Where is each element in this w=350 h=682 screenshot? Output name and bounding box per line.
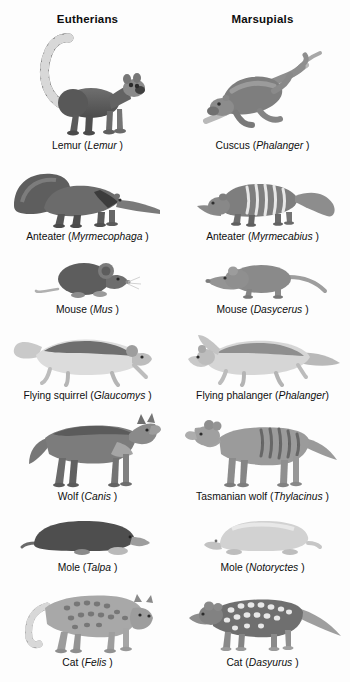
caption-mole-eutherian: Mole (Talpa ): [58, 559, 118, 574]
table-row: Wolf (Canis ): [0, 408, 350, 503]
caption-wolf: Wolf (Canis ): [58, 488, 117, 503]
flying-squirrel-illustration: [0, 325, 175, 387]
caption-mouse-eutherian: Mouse (Mus ): [56, 301, 119, 316]
cell-eutherian-cat: Cat (Felis ): [0, 582, 175, 669]
table-row: Flying squirrel (Glaucomys ): [0, 325, 350, 402]
cell-marsupial-flying-phalanger: Flying phalanger (Phalanger): [175, 325, 350, 402]
cell-marsupial-mole: Mole (Notoryctes ): [175, 513, 350, 574]
caption-thylacine: Tasmanian wolf (Thylacinus ): [196, 488, 329, 503]
convergent-evolution-figure: Eutherians Marsupials: [0, 0, 350, 682]
mouse-illustration: [0, 251, 175, 301]
giant-anteater-illustration: [0, 162, 175, 228]
comparison-rows: Lemur (Lemur ): [0, 29, 350, 669]
numbat-illustration: [175, 162, 350, 228]
table-row: Lemur (Lemur ): [0, 29, 350, 152]
cell-marsupial-cuscus: Cuscus (Phalanger ): [175, 29, 350, 152]
quoll-illustration: [175, 582, 350, 654]
cell-eutherian-mouse: Mouse (Mus ): [0, 251, 175, 316]
ocelot-illustration: [0, 582, 175, 654]
caption-anteater-marsupial: Anteater (Myrmecabius ): [206, 228, 319, 243]
thylacine-illustration: [175, 408, 350, 488]
wolf-illustration: [0, 408, 175, 488]
caption-anteater-eutherian: Anteater (Myrmecophaga ): [26, 228, 148, 243]
caption-mole-marsupial: Mole (Notoryctes ): [220, 559, 304, 574]
column-headers: Eutherians Marsupials: [0, 0, 350, 25]
table-row: Cat (Felis ): [0, 582, 350, 669]
cell-eutherian-anteater: Anteater (Myrmecophaga ): [0, 162, 175, 243]
mole-illustration: [0, 513, 175, 559]
caption-cat-eutherian: Cat (Felis ): [62, 654, 112, 669]
cell-marsupial-mouse: Mouse (Dasycerus ): [175, 251, 350, 316]
caption-mouse-marsupial: Mouse (Dasycerus ): [216, 301, 308, 316]
table-row: Anteater (Myrmecophaga ): [0, 162, 350, 243]
cell-eutherian-lemur: Lemur (Lemur ): [0, 29, 175, 152]
column-header-marsupials: Marsupials: [175, 13, 350, 25]
lemur-illustration: [0, 29, 175, 137]
cell-eutherian-wolf: Wolf (Canis ): [0, 408, 175, 503]
cell-eutherian-mole: Mole (Talpa ): [0, 513, 175, 574]
marsupial-mouse-illustration: [175, 251, 350, 301]
flying-phalanger-illustration: [175, 325, 350, 387]
caption-lemur: Lemur (Lemur ): [52, 137, 123, 152]
caption-cat-marsupial: Cat (Dasyurus ): [226, 654, 298, 669]
table-row: Mouse (Mus ): [0, 251, 350, 316]
cell-marsupial-numbat: Anteater (Myrmecabius ): [175, 162, 350, 243]
caption-flying-squirrel: Flying squirrel (Glaucomys ): [23, 387, 151, 402]
cell-marsupial-thylacine: Tasmanian wolf (Thylacinus ): [175, 408, 350, 503]
cell-marsupial-quoll: Cat (Dasyurus ): [175, 582, 350, 669]
cell-eutherian-flying-squirrel: Flying squirrel (Glaucomys ): [0, 325, 175, 402]
caption-cuscus: Cuscus (Phalanger ): [216, 137, 310, 152]
cuscus-illustration: [175, 29, 350, 137]
marsupial-mole-illustration: [175, 513, 350, 559]
table-row: Mole (Talpa ): [0, 513, 350, 574]
column-header-eutherians: Eutherians: [0, 13, 175, 25]
caption-flying-phalanger: Flying phalanger (Phalanger): [196, 387, 329, 402]
